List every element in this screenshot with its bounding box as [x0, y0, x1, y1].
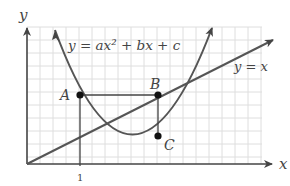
point-b-label: B [149, 76, 160, 92]
y-axis-label: y [18, 6, 28, 24]
line-equation-label: y = x [233, 59, 269, 74]
tick-label-1: 1 [77, 172, 83, 183]
point-c-label: C [164, 137, 175, 153]
x-axis-label: x [279, 155, 288, 173]
point-b [154, 91, 161, 98]
point-a [76, 91, 83, 98]
point-c [154, 132, 161, 139]
parabola-equation-label: y = ax² + bx + c [67, 37, 181, 53]
diagram-canvas: y x 1 y = ax² + bx + c y = x A B C [0, 0, 290, 186]
point-a-label: A [58, 87, 70, 103]
